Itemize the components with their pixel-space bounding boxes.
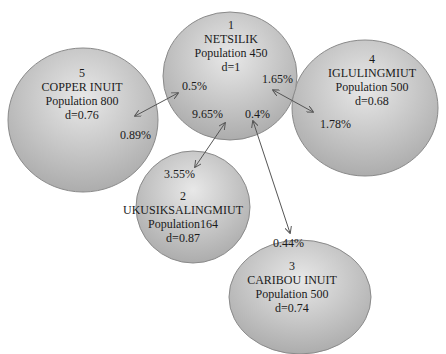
edge-1-3-arrow: [253, 121, 290, 233]
node-5-name: COPPER INUIT: [41, 80, 122, 94]
node-5-label: 5 COPPER INUIT Population 800 d=0.76: [41, 66, 122, 122]
node-3-population: Population 500: [247, 287, 337, 301]
edge-1-4-pct-to: 1.78%: [320, 117, 351, 131]
node-5-d: d=0.76: [41, 108, 122, 122]
node-3-id: 3: [247, 259, 337, 273]
node-1-id: 1: [194, 18, 267, 32]
node-2-d: d=0.87: [123, 231, 243, 245]
edge-1-4-pct-from: 1.65%: [262, 72, 293, 86]
node-1-label: 1 NETSILIK Population 450 d=1: [194, 18, 267, 74]
node-4-id: 4: [328, 52, 416, 66]
node-2-label: 2 UKUSIKSALINGMIUT Population164 d=0.87: [123, 189, 243, 245]
node-1-d: d=1: [194, 60, 267, 74]
edge-1-3-pct-to: 0.44%: [273, 236, 304, 250]
edge-1-2-pct-to: 3.55%: [164, 167, 195, 181]
edge-1-2-pct-from: 9.65%: [192, 107, 223, 121]
node-1-name: NETSILIK: [194, 32, 267, 46]
edge-1-5-pct-from: 0.5%: [182, 79, 207, 93]
node-2-population: Population164: [123, 217, 243, 231]
node-5-population: Population 800: [41, 94, 122, 108]
node-4-population: Population 500: [328, 80, 416, 94]
edge-1-3-pct-from: 0.4%: [245, 107, 270, 121]
node-4-name: IGLULINGMIUT: [328, 66, 416, 80]
edge-1-5-pct-to: 0.89%: [120, 128, 151, 142]
node-3-d: d=0.74: [247, 301, 337, 315]
node-3-label: 3 CARIBOU INUIT Population 500 d=0.74: [247, 259, 337, 315]
node-4-d: d=0.68: [328, 94, 416, 108]
node-3-name: CARIBOU INUIT: [247, 273, 337, 287]
node-4-label: 4 IGLULINGMIUT Population 500 d=0.68: [328, 52, 416, 108]
node-5-id: 5: [41, 66, 122, 80]
node-2-name: UKUSIKSALINGMIUT: [123, 203, 243, 217]
node-1-population: Population 450: [194, 46, 267, 60]
node-2-id: 2: [123, 189, 243, 203]
